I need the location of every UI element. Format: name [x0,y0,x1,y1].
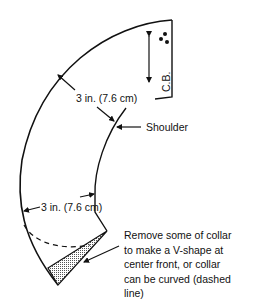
shoulder-label: Shoulder [146,121,188,133]
width-arrow-top-b [97,107,114,121]
fold-marker-dots [159,32,169,44]
width-arrow-top-a [58,75,75,90]
instruction-note: Remove some of collar to make a V-shape … [124,228,231,301]
note-line: to make a V-shape at [124,243,231,258]
center-back-label: C.B. [160,72,172,92]
width-arrow-bottom-b [80,194,94,197]
v-removal-area [48,231,107,285]
note-line: can be curved (dashed [124,272,231,287]
note-line: center front, or collar [124,257,231,272]
note-line: Remove some of collar [124,228,231,243]
width-arrow-bottom-a [24,207,40,211]
width-label-bottom: 3 in. (7.6 cm) [41,201,102,213]
note-line: line) [124,286,231,301]
width-label-top: 3 in. (7.6 cm) [76,92,137,104]
curved-alternative-dashed [24,225,90,247]
